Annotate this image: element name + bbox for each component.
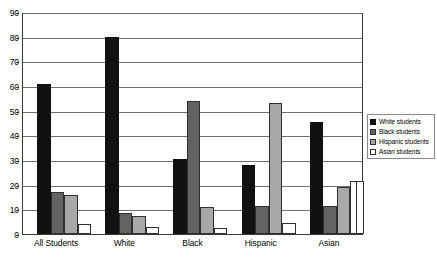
bar <box>105 37 119 234</box>
legend-swatch-black-icon <box>370 119 376 125</box>
bar-group <box>105 13 159 234</box>
x-tick-label: White <box>90 238 158 248</box>
bar <box>200 207 214 234</box>
bar <box>37 84 51 234</box>
x-axis: All StudentsWhiteBlackHispanicAsian <box>22 238 363 254</box>
edge-clipped-bar <box>356 181 362 234</box>
y-tick-mark <box>16 87 19 88</box>
y-tick-mark <box>16 161 19 162</box>
bar <box>323 206 337 234</box>
bar <box>173 159 187 234</box>
y-tick-mark <box>16 38 19 39</box>
x-tick-label: Black <box>158 238 226 248</box>
legend-item: Asian students <box>370 147 432 156</box>
legend-swatch-white-icon <box>370 149 376 155</box>
x-tick-label: Hispanic <box>227 238 295 248</box>
bar-group <box>173 13 227 234</box>
bar <box>132 216 146 235</box>
bar <box>64 195 78 234</box>
chart-legend: White studentsBlack studentsHispanic stu… <box>367 114 435 159</box>
legend-label: Hispanic students <box>379 138 429 145</box>
y-tick-mark <box>16 210 19 211</box>
y-tick-mark <box>16 62 19 63</box>
bar-group <box>37 13 91 234</box>
bar-group <box>242 13 296 234</box>
bar <box>310 122 324 234</box>
bar <box>78 224 92 234</box>
legend-label: White students <box>379 118 421 125</box>
bar <box>269 103 283 234</box>
bar <box>51 192 65 234</box>
bar <box>214 228 228 234</box>
legend-item: Hispanic students <box>370 137 432 146</box>
x-tick-label: All Students <box>22 238 90 248</box>
y-tick-mark <box>16 235 19 236</box>
bar <box>255 206 269 234</box>
y-tick-mark <box>16 112 19 113</box>
bar <box>119 213 133 234</box>
x-tick-label: Asian <box>295 238 363 248</box>
bars-layer <box>23 13 362 234</box>
bar <box>337 187 351 234</box>
bar-chart: 9080706050403020100 All StudentsWhiteBla… <box>0 0 437 259</box>
bar <box>187 101 201 234</box>
y-tick-mark <box>16 13 19 14</box>
legend-label: Black students <box>379 128 420 135</box>
y-axis: 9080706050403020100 <box>0 13 19 235</box>
legend-swatch-dark-gray-icon <box>370 129 376 135</box>
bar <box>242 165 256 234</box>
bar <box>146 227 160 234</box>
bar <box>282 223 296 234</box>
legend-item: Black students <box>370 127 432 136</box>
legend-item: White students <box>370 117 432 126</box>
plot-area <box>22 13 363 235</box>
legend-label: Asian students <box>379 148 420 155</box>
y-tick-mark <box>16 186 19 187</box>
y-tick-mark <box>16 136 19 137</box>
legend-swatch-light-gray-icon <box>370 139 376 145</box>
